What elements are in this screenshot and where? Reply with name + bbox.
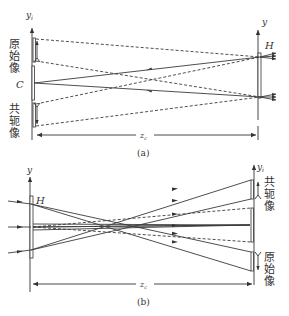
- hologram-label-b: H: [35, 195, 45, 206]
- svg-text:像: 像: [9, 62, 20, 75]
- center-label-c: C: [16, 79, 24, 90]
- svg-text:始: 始: [9, 49, 20, 63]
- original-image-bracket-b: [251, 252, 261, 271]
- rays-a: [34, 39, 276, 126]
- axis-label-y-b: y: [26, 165, 33, 175]
- conjugate-image-bracket-b: [251, 180, 261, 199]
- svg-text:轭: 轭: [264, 187, 275, 201]
- original-image-label-b: 原 始 像: [264, 251, 275, 288]
- svg-text:像: 像: [264, 275, 275, 288]
- conjugate-image-bracket-a: [33, 103, 40, 127]
- svg-text:像: 像: [264, 200, 275, 213]
- distance-zc-a: zc: [37, 126, 258, 141]
- svg-text:zc: zc: [139, 280, 147, 290]
- axis-label-yi-b: yi: [256, 162, 264, 173]
- conjugate-image-label-b: 共 轭 像: [264, 176, 275, 213]
- diffracted-rays-b: [31, 180, 251, 271]
- distance-zc-b: zc: [33, 280, 252, 290]
- svg-text:始: 始: [264, 262, 275, 276]
- caption-b: (b): [137, 297, 150, 307]
- svg-text:像: 像: [9, 127, 20, 140]
- conjugate-image-label-a: 共 轭 像: [9, 103, 20, 140]
- svg-text:zc: zc: [139, 131, 147, 141]
- svg-text:轭: 轭: [9, 114, 20, 128]
- hologram-label-a: H: [264, 40, 274, 51]
- incident-rays-b: [8, 200, 31, 254]
- caption-a: (a): [137, 148, 149, 158]
- axis-label-yi: yi: [25, 10, 33, 21]
- hologram-plate-a: [258, 53, 261, 98]
- center-image-plate-b: [251, 208, 254, 242]
- hologram-diagram: yi 原 始 像 C 共 轭 像 y H: [0, 0, 289, 316]
- axis-label-y: y: [261, 17, 268, 27]
- original-image-bracket-a: [33, 38, 40, 62]
- panel-a: yi 原 始 像 C 共 轭 像 y H: [9, 10, 276, 158]
- original-image-label-a: 原 始 像: [9, 38, 20, 75]
- panel-b: y H yi 共 轭 像: [8, 162, 275, 307]
